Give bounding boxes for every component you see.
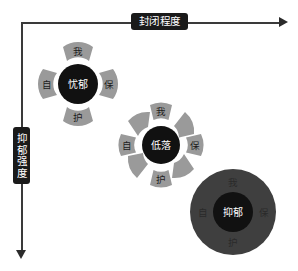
- cluster-depression[interactable]: 抑郁 我 保 护 自: [187, 166, 279, 258]
- petal-label-right: 保: [190, 140, 200, 151]
- cluster-core-label: 低落: [151, 139, 172, 151]
- petal-label-right: 保: [259, 207, 269, 218]
- petal-label-right: 保: [104, 79, 114, 90]
- petal-label-bottom: 护: [228, 237, 238, 248]
- petal-label-bottom: 护: [73, 112, 83, 123]
- y-axis-arrowhead-icon: [16, 250, 26, 259]
- petal-label-top: 我: [228, 177, 238, 188]
- cluster-melancholy[interactable]: 忧郁 我 保 护 自: [32, 36, 124, 132]
- petal-label-top: 我: [156, 106, 166, 117]
- petal-label-left: 自: [42, 79, 52, 90]
- petal-label-bottom: 护: [156, 174, 166, 185]
- cluster-core-label: 忧郁: [68, 78, 89, 90]
- diagram-canvas: 封闭程度 抑郁强度 忧郁 我 保 护 自: [0, 0, 298, 271]
- cluster-core-label: 抑郁: [223, 206, 244, 218]
- petal-label-top: 我: [73, 46, 83, 57]
- x-axis-arrowhead-icon: [279, 17, 288, 27]
- petal-top-left[interactable]: [128, 112, 150, 136]
- petal-label-left: 自: [198, 207, 208, 218]
- petal-label-left: 自: [122, 140, 132, 151]
- x-axis-label: 封闭程度: [131, 13, 188, 30]
- petal-top-right[interactable]: [174, 112, 194, 138]
- petal-bottom-left[interactable]: [128, 153, 148, 178]
- y-axis-label: 抑郁强度: [13, 127, 30, 184]
